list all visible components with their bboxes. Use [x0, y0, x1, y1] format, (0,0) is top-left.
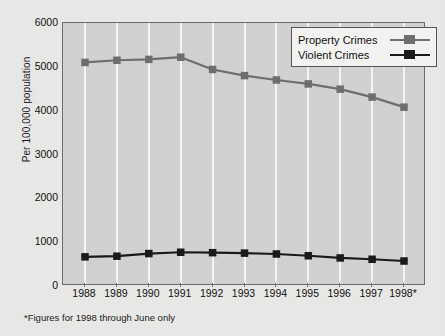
y-axis-tick-label: 2000 [24, 191, 58, 203]
legend-key-property-crimes [390, 33, 430, 46]
x-axis-tick-mark [116, 283, 117, 287]
x-axis-tick-mark [307, 283, 308, 287]
data-point-marker [113, 57, 121, 64]
x-axis-tick-mark [212, 283, 213, 287]
data-point-marker [400, 103, 408, 111]
legend-marker-violent-crimes [404, 50, 415, 59]
data-point-marker [81, 59, 89, 66]
legend-marker-property-crimes [404, 35, 415, 44]
data-point-marker [145, 56, 153, 64]
data-point-marker [81, 253, 89, 261]
data-point-marker [177, 248, 185, 256]
chart-legend: Property Crimes Violent Crimes [291, 27, 437, 67]
x-axis-tick-mark [339, 283, 340, 287]
x-axis-tick-labels: 1988198919901991199219931994199519961997… [62, 287, 425, 303]
crime-rate-line-chart: Per 100,000 population 01000200030004000… [0, 0, 445, 336]
x-axis-tick-mark [180, 283, 181, 287]
data-point-marker [209, 249, 217, 256]
x-axis-tick-mark [244, 283, 245, 287]
chart-footnote: *Figures for 1998 through June only [24, 312, 175, 323]
data-point-marker [241, 72, 249, 80]
data-point-marker [145, 250, 153, 258]
y-axis-tick-label: 4000 [24, 104, 58, 116]
x-axis-tick-mark [371, 283, 372, 287]
x-axis-tick-label: 1996 [328, 287, 351, 299]
data-point-marker [336, 85, 344, 93]
x-axis-tick-label: 1998* [389, 287, 416, 299]
x-axis-tick-label: 1994 [264, 287, 287, 299]
x-axis-tick-mark [84, 283, 85, 287]
data-point-marker [177, 53, 185, 61]
y-axis-tick-label: 3000 [24, 148, 58, 160]
data-point-marker [241, 249, 249, 257]
legend-label-violent-crimes: Violent Crimes [298, 49, 386, 61]
legend-entry-property-crimes: Property Crimes [298, 32, 430, 47]
data-point-marker [305, 252, 313, 260]
data-point-marker [273, 76, 281, 84]
y-axis-tick-label: 5000 [24, 60, 58, 72]
x-axis-tick-label: 1990 [136, 287, 159, 299]
x-axis-tick-mark [148, 283, 149, 287]
x-axis-tick-mark [275, 283, 276, 287]
legend-label-property-crimes: Property Crimes [298, 34, 386, 46]
data-point-marker [336, 254, 344, 261]
x-axis-tick-label: 1988 [72, 287, 95, 299]
y-axis-tick-label: 0 [24, 279, 58, 291]
y-axis-tick-labels: 0100020003000400050006000 [20, 0, 58, 336]
x-axis-tick-label: 1993 [232, 287, 255, 299]
legend-key-violent-crimes [390, 48, 430, 61]
data-point-marker [305, 80, 313, 88]
y-axis-tick-label: 1000 [24, 235, 58, 247]
y-axis-tick-label: 6000 [24, 16, 58, 28]
x-axis-tick-label: 1991 [168, 287, 191, 299]
x-axis-tick-label: 1992 [200, 287, 223, 299]
data-point-marker [209, 66, 217, 74]
x-axis-tick-mark [403, 283, 404, 287]
data-point-marker [368, 93, 376, 101]
data-point-marker [273, 250, 281, 257]
data-point-marker [113, 252, 121, 260]
x-axis-tick-label: 1989 [104, 287, 127, 299]
x-axis-tick-label: 1997 [359, 287, 382, 299]
legend-entry-violent-crimes: Violent Crimes [298, 47, 430, 62]
data-point-marker [400, 257, 408, 265]
x-axis-tick-label: 1995 [296, 287, 319, 299]
data-point-marker [368, 256, 376, 263]
